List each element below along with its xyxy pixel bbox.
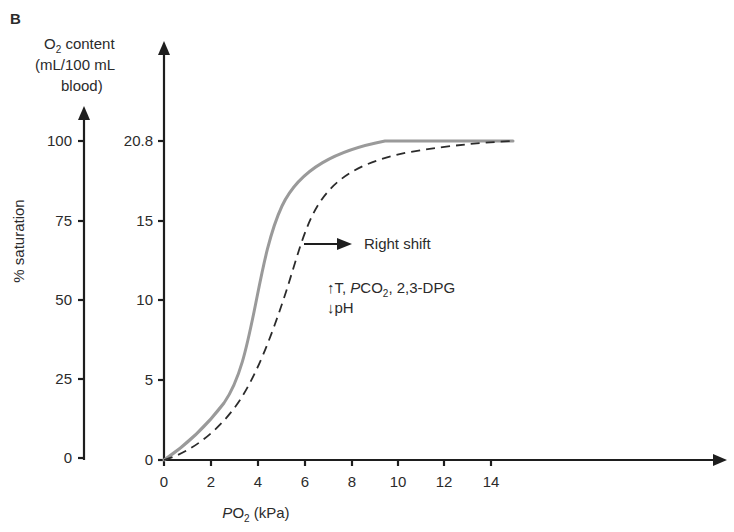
units-line-1: (mL/100 mL [35,56,115,73]
x-axis-title: PO2 (kPa) [222,504,289,524]
svg-text:12: 12 [436,473,453,490]
o2-main: O [44,35,56,52]
y-right-tick-labels: 20.8 15 10 5 0 [124,132,153,468]
y-right-axis-title: O2 content (mL/100 mL blood) [35,35,115,94]
svg-text:14: 14 [483,473,500,490]
svg-text:100: 100 [47,132,72,149]
svg-text:8: 8 [348,473,356,490]
svg-text:0: 0 [64,449,72,466]
svg-text:0: 0 [145,451,153,468]
y-left-axis [78,118,84,460]
y-right-axis [158,54,164,461]
y-left-axis-title: % saturation [10,199,27,282]
panel-label: B [10,10,21,27]
svg-text:4: 4 [254,473,262,490]
svg-text:6: 6 [301,473,309,490]
factors-line-1: ↑T, PCO2, 2,3-DPG [327,279,455,299]
y-right-arrowhead-icon [158,41,170,55]
svg-text:10: 10 [136,291,153,308]
svg-text:5: 5 [145,371,153,388]
x-axis [158,460,714,466]
units-line-2: blood) [61,77,103,94]
svg-text:20.8: 20.8 [124,132,153,149]
y-left-arrowhead-icon [78,106,90,120]
svg-text:75: 75 [55,212,72,229]
svg-text:25: 25 [55,370,72,387]
content-word: content [65,35,115,52]
svg-text:50: 50 [55,291,72,308]
svg-text:O2 content: O2 content [44,35,115,55]
right-shift-label: Right shift [364,235,432,252]
svg-text:10: 10 [390,473,407,490]
factors-line-2: ↓pH [327,299,354,316]
svg-text:2: 2 [207,473,215,490]
oxygen-dissociation-chart: B O2 content (mL/100 mL blood) 100 75 50… [0,0,734,532]
right-shift-arrow-icon [304,238,352,250]
svg-text:15: 15 [136,212,153,229]
x-arrowhead-icon [713,454,727,466]
y-left-tick-labels: 100 75 50 25 0 [47,132,72,466]
svg-text:0: 0 [160,473,168,490]
x-tick-labels: 0 2 4 6 8 10 12 14 [160,473,500,490]
